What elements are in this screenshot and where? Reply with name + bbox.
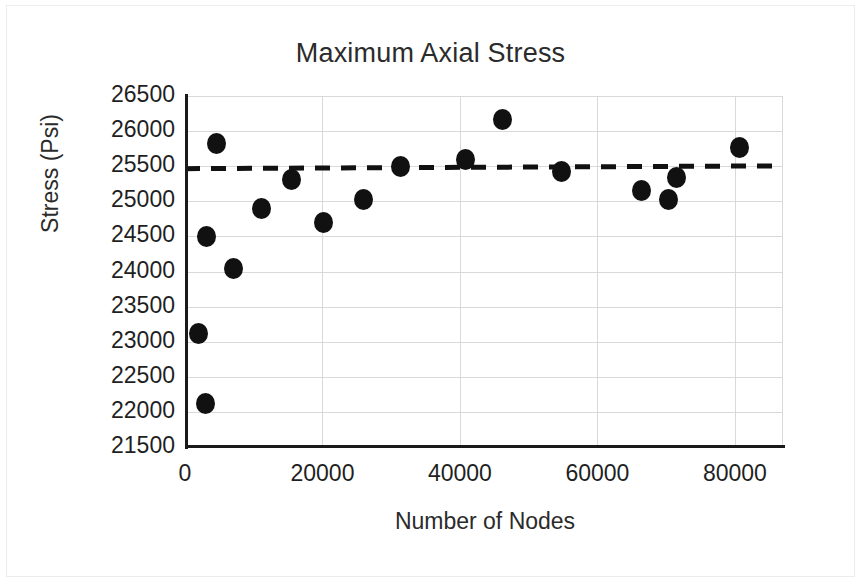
data-point xyxy=(456,149,475,170)
data-point xyxy=(632,180,651,201)
gridline-horizontal xyxy=(185,131,783,132)
data-point xyxy=(252,198,271,219)
y-tick-label: 23000 xyxy=(65,327,175,354)
gridline-vertical xyxy=(597,96,598,447)
y-tick-label: 25500 xyxy=(65,151,175,178)
data-point xyxy=(224,258,243,279)
y-axis-tick-labels: 2150022000225002300023500240002450025000… xyxy=(60,0,175,584)
data-point xyxy=(314,212,333,233)
y-tick-label: 26000 xyxy=(65,116,175,143)
plot-area xyxy=(185,96,783,447)
plot-right-border xyxy=(782,96,783,447)
data-point xyxy=(493,109,512,130)
gridline-horizontal xyxy=(185,272,783,273)
y-tick-label: 24000 xyxy=(65,257,175,284)
y-tick-label: 26500 xyxy=(65,81,175,108)
x-axis-title: Number of Nodes xyxy=(185,508,785,535)
y-tick-label: 22500 xyxy=(65,362,175,389)
gridline-horizontal xyxy=(185,377,783,378)
data-point xyxy=(354,189,373,210)
data-point xyxy=(659,189,678,210)
x-tick-label: 40000 xyxy=(380,460,540,487)
gridline-horizontal xyxy=(185,342,783,343)
data-point xyxy=(196,393,215,414)
data-point xyxy=(189,323,208,344)
y-tick-label: 21500 xyxy=(65,432,175,459)
gridline-horizontal xyxy=(185,412,783,413)
y-tick-label: 22000 xyxy=(65,397,175,424)
data-point xyxy=(552,161,571,182)
data-point xyxy=(391,156,410,177)
data-point xyxy=(197,226,216,247)
x-tick-label: 60000 xyxy=(517,460,677,487)
data-point xyxy=(282,169,301,190)
gridline-vertical xyxy=(322,96,323,447)
y-tick-label: 25000 xyxy=(65,186,175,213)
data-point xyxy=(667,167,686,188)
gridline-horizontal xyxy=(185,236,783,237)
chart-figure: Maximum Axial Stress Stress (Psi) Number… xyxy=(0,0,861,584)
x-axis-line xyxy=(185,445,785,448)
plot-top-border xyxy=(185,96,783,97)
gridline-vertical xyxy=(460,96,461,447)
gridline-horizontal xyxy=(185,201,783,202)
x-tick-label: 80000 xyxy=(655,460,815,487)
x-axis-tick-labels: 020000400006000080000 xyxy=(0,460,861,494)
gridline-horizontal xyxy=(185,307,783,308)
x-tick-label: 20000 xyxy=(242,460,402,487)
x-tick-label: 0 xyxy=(105,460,265,487)
data-point xyxy=(207,133,226,154)
data-point xyxy=(730,137,749,158)
y-tick-label: 23500 xyxy=(65,292,175,319)
y-tick-label: 24500 xyxy=(65,221,175,248)
y-axis-line xyxy=(185,94,188,449)
gridline-horizontal xyxy=(185,166,783,167)
